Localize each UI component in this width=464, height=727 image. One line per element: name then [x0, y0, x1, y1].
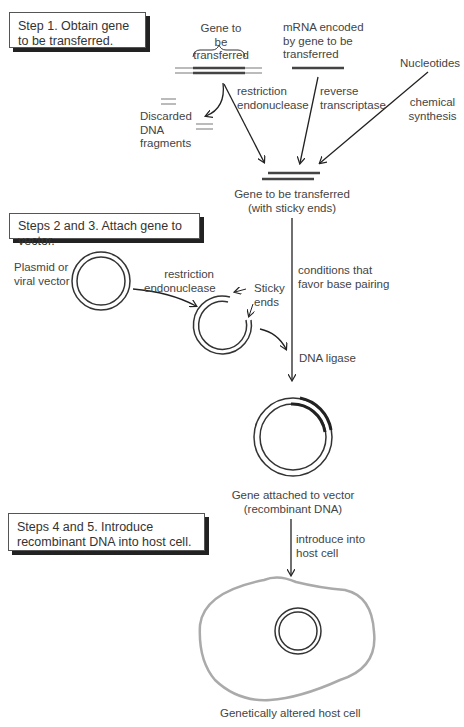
- label-sticky-gene-1: Gene to be transferred: [230, 188, 354, 202]
- diagram-graphics: [0, 0, 464, 727]
- recombinant-plasmid-icon: [254, 398, 332, 476]
- label-nucleotides: Nucleotides: [400, 57, 460, 71]
- step-2-3-box: Steps 2 and 3. Attach gene to vector.: [9, 213, 200, 239]
- label-restriction-2: restriction endonuclease: [144, 268, 214, 295]
- label-attached-2: (recombinant DNA): [230, 503, 356, 517]
- label-attached-1: Gene attached to vector: [230, 489, 356, 503]
- label-restriction-1: restriction endonuclease: [237, 85, 315, 112]
- step-4-5-text: Steps 4 and 5. Introduce recombinant DNA…: [17, 520, 191, 549]
- label-sticky-gene-2: (with sticky ends): [230, 202, 354, 216]
- step-1-box: Step 1. Obtain gene to be transferred.: [9, 12, 146, 48]
- step-1-text: Step 1. Obtain gene to be transferred.: [18, 19, 129, 48]
- sticky-gene-icon: [262, 173, 320, 179]
- label-discarded: Discarded DNA fragments: [140, 110, 192, 151]
- label-reverse-transcriptase: reverse transcriptase: [320, 85, 392, 112]
- host-cell-icon: [200, 577, 375, 700]
- label-introduce: introduce into host cell: [296, 533, 368, 560]
- open-plasmid-icon: [193, 296, 251, 354]
- label-plasmid: Plasmid or viral vector: [14, 261, 74, 288]
- cell-plasmid-icon: [275, 608, 321, 654]
- discard-arrow-icon: [206, 83, 223, 116]
- label-ligase: DNA ligase: [299, 352, 356, 366]
- step-4-5-box: Steps 4 and 5. Introduce recombinant DNA…: [8, 513, 205, 551]
- label-host-cell: Genetically altered host cell: [220, 707, 360, 721]
- dna-with-gene-icon: [175, 68, 262, 73]
- label-conditions: conditions that favor base pairing: [298, 264, 398, 291]
- arrow-ligase-icon: [260, 329, 286, 349]
- label-gene: Gene to be transferred: [193, 22, 249, 63]
- plasmid-icon: [72, 252, 130, 310]
- label-chemical-synthesis: chemical synthesis: [405, 96, 460, 123]
- label-mrna: mRNA encoded by gene to be transferred: [283, 21, 365, 62]
- label-sticky-ends: Sticky ends: [254, 282, 284, 309]
